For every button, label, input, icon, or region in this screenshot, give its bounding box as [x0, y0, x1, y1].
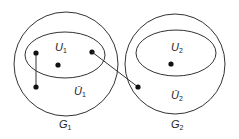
diagram-svg: U1 Ū1 G1 U2 Ū2 G2 — [0, 0, 239, 139]
vertex-u1-a — [33, 50, 38, 55]
u2-label: U2 — [171, 41, 183, 54]
vertex-u1bar-a — [33, 84, 38, 89]
graph-g2: U2 Ū2 G2 — [125, 14, 225, 131]
g1-label: G1 — [59, 118, 72, 131]
vertex-u2-a — [168, 61, 173, 66]
graph-partition-diagram: U1 Ū1 G1 U2 Ū2 G2 — [0, 0, 239, 139]
u2-ellipse — [136, 30, 216, 76]
u1-complement-label: Ū1 — [74, 85, 86, 98]
vertex-u2bar-a — [135, 84, 140, 89]
u2-complement-label: Ū2 — [171, 89, 183, 102]
g2-label: G2 — [171, 118, 184, 131]
u1-label: U1 — [55, 41, 67, 54]
vertex-u1-b — [55, 62, 60, 67]
graph-g1: U1 Ū1 G1 — [14, 12, 118, 131]
